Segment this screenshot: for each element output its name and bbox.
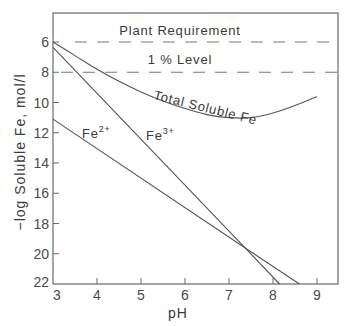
fe2-line xyxy=(53,119,299,284)
series-label-fe3: Fe3+ xyxy=(146,126,175,143)
y-tick-label: 16 xyxy=(33,185,49,201)
x-tick-label: 3 xyxy=(53,287,61,303)
x-tick-label: 4 xyxy=(93,287,101,303)
chart: 34567896810121416182022 Plant Requiremen… xyxy=(0,0,352,326)
series-label-fe2: Fe2+ xyxy=(82,124,111,141)
y-axis-label: −log Soluble Fe, mol/l xyxy=(12,73,28,230)
fe2-base: Fe xyxy=(82,126,99,141)
ref-label-one-percent-level: 1 % Level xyxy=(148,52,212,67)
ref-label-plant-requirement: Plant Requirement xyxy=(119,23,240,38)
y-tick-label: 18 xyxy=(33,216,49,232)
series-label-total-soluble-fe: Total Soluble Fe xyxy=(152,87,259,127)
x-tick-label: 6 xyxy=(181,287,189,303)
x-tick-label: 5 xyxy=(137,287,145,303)
x-axis-label: pH xyxy=(168,305,188,321)
y-tick-label: 22 xyxy=(33,274,49,290)
fe2-sup: 2+ xyxy=(99,124,111,134)
x-tick-label: 9 xyxy=(313,287,321,303)
fe3-base: Fe xyxy=(146,128,163,143)
x-tick-label: 7 xyxy=(225,287,233,303)
y-tick-label: 8 xyxy=(41,64,49,80)
x-tick-label: 8 xyxy=(269,287,277,303)
y-tick-label: 12 xyxy=(33,125,49,141)
y-tick-label: 6 xyxy=(41,34,49,50)
y-tick-label: 14 xyxy=(33,155,49,171)
y-tick-label: 20 xyxy=(33,246,49,262)
fe3-sup: 3+ xyxy=(163,126,175,136)
series-group xyxy=(53,42,317,284)
y-tick-label: 10 xyxy=(33,95,49,111)
